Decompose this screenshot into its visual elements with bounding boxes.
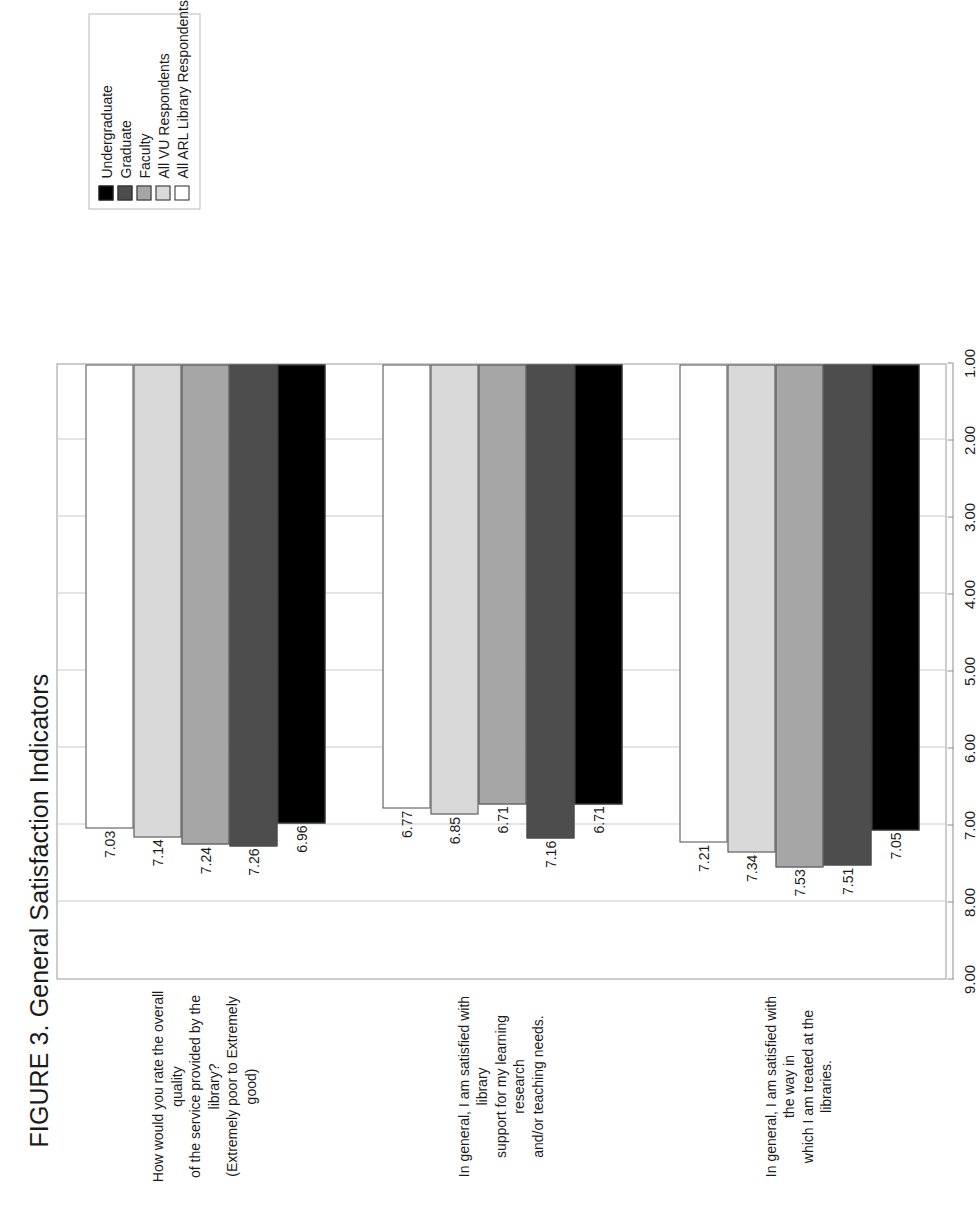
bar [526,364,574,838]
axis-tick-label: 2.00 [960,425,977,454]
axis-tick-label: 4.00 [960,579,977,608]
bar [229,364,277,846]
legend-item: Graduate [115,23,134,200]
value-axis: 9.008.007.006.005.004.003.002.001.00 [952,363,980,979]
bar [85,364,133,828]
axis-tick-label: 6.00 [960,733,977,762]
bar [823,364,871,865]
bar [430,364,478,814]
bar [382,364,430,808]
legend-swatch-icon [117,185,132,200]
legend-swatch-icon [174,185,189,200]
bar-value-label: 7.16 [543,836,557,867]
figure-title: FIGURE 3. General Satisfaction Indicator… [24,673,53,1147]
chart-legend: UndergraduateGraduateFacultyAll VU Respo… [88,13,200,209]
bar-value-label: 6.96 [294,821,308,852]
bar [871,364,919,830]
axis-tick-label: 9.00 [960,964,977,993]
category-label: How would you rate the overall qualityof… [149,987,260,1185]
legend-item-label: Undergraduate [99,85,113,178]
bar [133,364,181,837]
legend-swatch-icon [98,185,113,200]
bar [727,364,775,852]
axis-tick-label: 3.00 [960,502,977,531]
bar-value-label: 6.85 [447,812,461,843]
gridline [57,900,945,901]
bar-value-label: 6.71 [495,802,509,833]
bar-value-label: 7.26 [246,844,260,875]
legend-item: All VU Respondents [153,23,172,200]
legend-item: All ARL Library Respondents [172,23,191,200]
bar [574,364,622,804]
axis-tickmark [947,901,953,902]
axis-tickmark [947,978,953,979]
legend-item-label: All ARL Library Respondents [175,0,189,178]
bar-value-label: 7.53 [792,865,806,896]
legend-swatch-icon [136,185,151,200]
axis-tickmark [947,670,953,671]
legend-item-label: All VU Respondents [156,53,170,178]
bar [277,364,325,823]
bar-value-label: 7.03 [102,826,116,857]
bar-value-label: 7.24 [198,842,212,873]
axis-tickmark [947,439,953,440]
category-label: In general, I am satisfied with the way … [761,987,835,1185]
legend-item: Undergraduate [96,23,115,200]
axis-tickmark [947,824,953,825]
axis-tickmark [947,516,953,517]
axis-tick-label: 1.00 [960,348,977,377]
bar-value-label: 7.05 [888,828,902,859]
bar [478,364,526,804]
axis-tickmark [947,362,953,363]
axis-tick-label: 8.00 [960,887,977,916]
axis-tick-label: 7.00 [960,810,977,839]
bar [775,364,823,867]
bar-value-label: 7.34 [744,850,758,881]
axis-tick-label: 5.00 [960,656,977,685]
axis-tickmark [947,747,953,748]
bar-value-label: 6.71 [591,802,605,833]
bar [181,364,229,844]
bar [679,364,727,842]
plot-area: 7.037.147.247.266.966.776.856.717.166.71… [56,363,946,979]
bar-value-label: 6.77 [399,806,413,837]
bar-value-label: 7.21 [696,840,710,871]
axis-tickmark [947,593,953,594]
legend-swatch-icon [155,185,170,200]
legend-item-label: Faculty [137,133,151,178]
bar-value-label: 7.51 [840,863,854,894]
legend-item: Faculty [134,23,153,200]
category-label: In general, I am satisfied with librarys… [455,987,547,1185]
bar-value-label: 7.14 [150,835,164,866]
legend-item-label: Graduate [118,120,132,178]
